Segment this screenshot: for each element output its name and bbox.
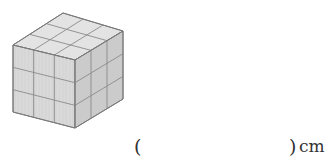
answer-blank[interactable] (150, 138, 285, 156)
cube-figure (0, 0, 140, 140)
answer-open-paren: ( (134, 135, 141, 157)
answer-close-paren: ) (289, 135, 296, 157)
unit-label: cm (299, 136, 325, 156)
